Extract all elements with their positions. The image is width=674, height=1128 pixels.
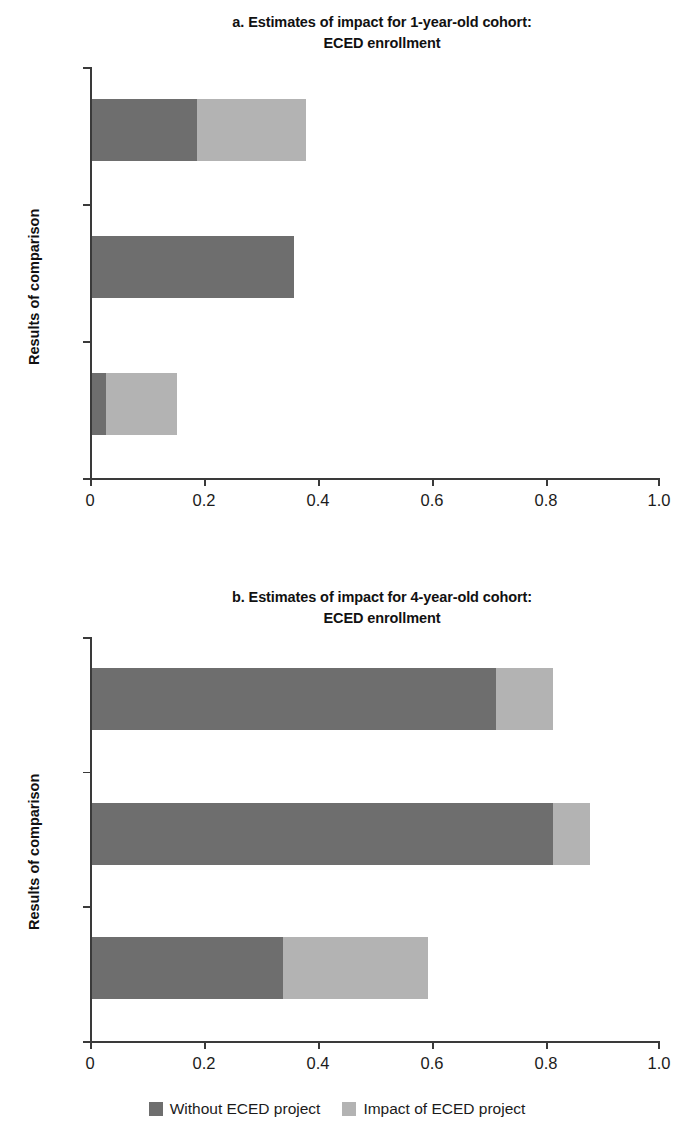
panel-a-y-tick-top	[83, 67, 90, 69]
panel-b-title-line-2: ECED enrollment	[90, 608, 674, 629]
panel-a-x-tick-label-0.6: 0.6	[402, 491, 462, 510]
panel-b-y-axis-label: Results of comparison	[26, 774, 42, 930]
panel-b-x-tick-0	[90, 1041, 92, 1049]
bar-segment-without-project	[92, 803, 554, 865]
panel-a-y-tick-divider-1	[83, 204, 90, 206]
panel-b-x-tick-label-1.0: 1.0	[629, 1054, 674, 1073]
panel-a-title-line-1: a. Estimates of impact for 1-year-old co…	[90, 12, 674, 33]
chart-panel-b: b. Estimates of impact for 4-year-old co…	[0, 575, 674, 1128]
bar-segment-without-project	[92, 937, 283, 999]
legend-item-without-project: Without ECED project	[149, 1100, 321, 1118]
chart-legend: Without ECED project Impact of ECED proj…	[0, 1100, 674, 1118]
bar-segment-without-project	[92, 668, 497, 730]
legend-label-without-project: Without ECED project	[170, 1100, 321, 1118]
panel-b-x-tick-0.6	[432, 1041, 434, 1049]
bar-segment-without-project	[92, 99, 197, 161]
panel-b-title: b. Estimates of impact for 4-year-old co…	[90, 587, 674, 629]
panel-b-y-tick-bottom	[83, 1041, 90, 1043]
panel-b-y-tick-top	[83, 637, 90, 639]
panel-b-x-tick-label-0.6: 0.6	[402, 1054, 462, 1073]
panel-a-plot-area: C*** B A*** 0 0.2 0.4 0.6 0.8 1.0	[90, 67, 660, 480]
panel-b-title-line-1: b. Estimates of impact for 4-year-old co…	[90, 587, 674, 608]
panel-b-x-tick-label-0.2: 0.2	[174, 1054, 234, 1073]
panel-b-x-tick-0.8	[546, 1041, 548, 1049]
panel-b-x-tick-label-0: 0	[60, 1054, 120, 1073]
panel-a-x-axis-line	[90, 478, 660, 480]
panel-a-title: a. Estimates of impact for 1-year-old co…	[90, 12, 674, 54]
panel-a-x-tick-label-0.4: 0.4	[288, 491, 348, 510]
panel-b-x-tick-0.2	[204, 1041, 206, 1049]
panel-b-x-tick-0.4	[318, 1041, 320, 1049]
bar-panel-a-A[interactable]	[92, 373, 178, 435]
bar-segment-impact-project	[496, 668, 553, 730]
panel-a-x-tick-label-0.2: 0.2	[174, 491, 234, 510]
panel-b-x-tick-label-0.8: 0.8	[516, 1054, 576, 1073]
panel-a-x-tick-label-1.0: 1.0	[629, 491, 674, 510]
panel-a-x-tick-0.8	[546, 478, 548, 486]
panel-a-y-tick-bottom	[83, 478, 90, 480]
panel-b-y-tick-divider-2	[83, 906, 90, 908]
legend-label-impact-project: Impact of ECED project	[363, 1100, 525, 1118]
legend-swatch-icon-without-project	[149, 1102, 163, 1116]
bar-panel-b-B[interactable]	[92, 803, 591, 865]
bar-panel-b-C[interactable]	[92, 668, 554, 730]
bar-segment-impact-project	[283, 937, 428, 999]
legend-item-impact-project: Impact of ECED project	[342, 1100, 525, 1118]
panel-a-x-tick-0.4	[318, 478, 320, 486]
panel-a-x-tick-0.2	[204, 478, 206, 486]
legend-swatch-icon-impact-project	[342, 1102, 356, 1116]
panel-b-x-axis-line	[90, 1041, 660, 1043]
panel-b-plot-area: C*** B*** A*** 0 0.2 0.4 0.6 0.8 1.0	[90, 637, 660, 1043]
panel-a-title-line-2: ECED enrollment	[90, 33, 674, 54]
panel-a-y-tick-divider-2	[83, 341, 90, 343]
chart-panel-a: a. Estimates of impact for 1-year-old co…	[0, 0, 674, 560]
panel-a-x-tick-label-0: 0	[60, 491, 120, 510]
panel-b-x-tick-1.0	[658, 1041, 660, 1049]
panel-b-x-tick-label-0.4: 0.4	[288, 1054, 348, 1073]
bar-segment-impact-project	[197, 99, 306, 161]
panel-b-y-tick-divider-1	[83, 772, 90, 774]
panel-a-x-tick-1.0	[658, 478, 660, 486]
panel-a-x-tick-0	[90, 478, 92, 486]
panel-a-y-axis-label: Results of comparison	[26, 209, 42, 365]
bar-panel-a-B[interactable]	[92, 236, 294, 298]
bar-segment-impact-project	[106, 373, 177, 435]
panel-a-x-tick-label-0.8: 0.8	[516, 491, 576, 510]
bar-segment-without-project	[92, 236, 294, 298]
bar-panel-b-A[interactable]	[92, 937, 428, 999]
bar-panel-a-C[interactable]	[92, 99, 307, 161]
bar-segment-impact-project	[553, 803, 590, 865]
panel-a-x-tick-0.6	[432, 478, 434, 486]
bar-segment-without-project	[92, 373, 106, 435]
